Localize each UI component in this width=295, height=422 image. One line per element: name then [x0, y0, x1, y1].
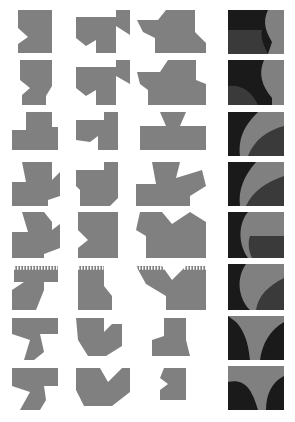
silhouette-r1c1 [18, 10, 52, 53]
silhouette-r5c2 [78, 212, 118, 258]
grid-cell-r1c4 [228, 10, 284, 54]
grid-cell-r7c4 [228, 316, 284, 360]
grid-cell-r2c4 [228, 60, 284, 105]
grid-cell-r1c1 [18, 10, 52, 53]
shape-grid-figure [0, 0, 295, 422]
grid-cell-r4c4 [228, 162, 284, 206]
grid-cell-r5c4 [228, 212, 284, 258]
grid-cell-r6c4 [228, 264, 284, 310]
grid-cell-r5c2 [78, 212, 118, 258]
panel-region-r5c4-2 [249, 236, 284, 258]
grid-cell-r3c4 [228, 112, 284, 156]
grid-cell-r8c4 [228, 366, 284, 410]
